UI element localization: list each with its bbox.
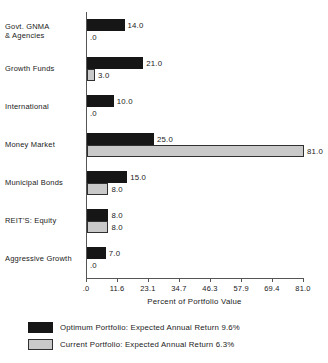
bar-row: .0 — [87, 107, 304, 119]
bar-value-label: 25.0 — [157, 135, 173, 144]
category-label: Aggressive Growth — [5, 254, 81, 264]
bar-row: 8.0 — [87, 209, 304, 221]
legend-swatch-current-icon — [28, 339, 53, 350]
x-tick-3 — [179, 278, 180, 282]
x-tick-label-5: 57.9 — [233, 284, 248, 293]
bar-current — [87, 221, 108, 233]
bar-row: 81.0 — [87, 145, 304, 157]
x-tick-2 — [148, 278, 149, 282]
legend-swatch-optimum-icon — [28, 322, 53, 333]
bar-row: .0 — [87, 31, 304, 43]
bar-value-label: 15.0 — [130, 173, 146, 182]
x-axis-title: Percent of Portfolio Value — [86, 297, 303, 306]
bar-row: .0 — [87, 259, 304, 271]
bar-row: 21.0 — [87, 57, 304, 69]
bar-row: 8.0 — [87, 221, 304, 233]
x-tick-label-1: 11.6 — [110, 284, 125, 293]
x-tick-label-0: .0 — [83, 284, 90, 293]
bar-value-label: .0 — [90, 33, 97, 42]
category-label: International — [5, 102, 81, 112]
legend-item-current: Current Portfolio: Expected Annual Retur… — [28, 337, 300, 352]
bar-value-label: 3.0 — [98, 71, 109, 80]
bar-optimum — [87, 95, 114, 107]
category-label: Govt. GNMA & Agencies — [5, 22, 81, 41]
bar-row: 8.0 — [87, 183, 304, 195]
bar-row: 3.0 — [87, 69, 304, 81]
bar-value-label: 8.0 — [111, 185, 122, 194]
bar-row: 7.0 — [87, 247, 304, 259]
chart-legend: Optimum Portfolio: Expected Annual Retur… — [28, 320, 300, 354]
x-tick-label-4: 46.3 — [202, 284, 217, 293]
bar-row: 10.0 — [87, 95, 304, 107]
bar-row: 25.0 — [87, 133, 304, 145]
bar-optimum — [87, 57, 143, 69]
bar-value-label: 8.0 — [111, 211, 122, 220]
bar-optimum — [87, 171, 127, 183]
legend-label-current: Current Portfolio: Expected Annual Retur… — [60, 340, 234, 349]
bar-optimum — [87, 133, 154, 145]
category-label: REIT'S: Equity — [5, 216, 81, 226]
bar-optimum — [87, 247, 106, 259]
bar-value-label: .0 — [90, 109, 97, 118]
x-tick-7 — [303, 278, 304, 282]
bar-current — [87, 69, 95, 81]
x-tick-1 — [117, 278, 118, 282]
legend-item-optimum: Optimum Portfolio: Expected Annual Retur… — [28, 320, 300, 335]
bar-row: 15.0 — [87, 171, 304, 183]
bar-value-label: 7.0 — [109, 249, 120, 258]
bar-value-label: 81.0 — [307, 147, 323, 156]
bar-current — [87, 183, 108, 195]
bar-current — [87, 145, 304, 157]
bar-value-label: 21.0 — [146, 59, 162, 68]
x-tick-4 — [210, 278, 211, 282]
x-tick-label-6: 69.4 — [264, 284, 279, 293]
x-tick-label-7: 81.0 — [295, 284, 310, 293]
bar-row: 14.0 — [87, 19, 304, 31]
category-label: Growth Funds — [5, 64, 81, 74]
bar-value-label: .0 — [90, 261, 97, 270]
bar-value-label: 10.0 — [117, 97, 133, 106]
x-tick-label-2: 23.1 — [140, 284, 155, 293]
x-axis-line — [86, 278, 303, 279]
x-tick-6 — [272, 278, 273, 282]
legend-label-optimum: Optimum Portfolio: Expected Annual Retur… — [60, 323, 240, 332]
category-label: Money Market — [5, 140, 81, 150]
portfolio-bar-chart: .011.623.134.746.357.969.481.0 Govt. GNM… — [0, 0, 328, 363]
x-tick-5 — [241, 278, 242, 282]
bar-optimum — [87, 209, 108, 221]
x-tick-0 — [86, 278, 87, 282]
x-tick-label-3: 34.7 — [171, 284, 186, 293]
bar-value-label: 14.0 — [128, 21, 144, 30]
category-label: Municipal Bonds — [5, 178, 81, 188]
bar-optimum — [87, 19, 125, 31]
bar-value-label: 8.0 — [111, 223, 122, 232]
